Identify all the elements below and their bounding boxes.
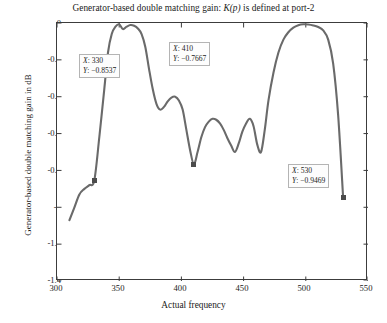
x-tick-label-1: 350: [98, 284, 138, 293]
chart-title-symbol: K(p): [223, 3, 240, 13]
data-tip-410[interactable]: X: 410 Y: −0.7667: [169, 42, 210, 66]
chart-figure: Generator-based double matching gain: K(…: [0, 0, 387, 323]
plot-area: X: 330 Y: −0.8537 X: 410 Y: −0.7667 X: 5…: [56, 22, 367, 280]
x-tick-label-5: 550: [346, 284, 386, 293]
x-axis-ticks-top: [57, 23, 368, 28]
data-tip-530-x: X: 530: [292, 166, 325, 176]
data-marker-330[interactable]: [92, 178, 97, 183]
x-axis-ticks: [57, 277, 368, 282]
data-tip-530[interactable]: X: 530 Y: −0.9469: [288, 164, 329, 188]
data-tip-410-y: Y: −0.7667: [173, 54, 206, 64]
x-tick-label-0: 300: [36, 284, 76, 293]
data-marker-530[interactable]: [341, 195, 346, 200]
chart-title-lead: Generator-based double matching gain:: [72, 3, 223, 13]
data-tip-410-x: X: 410: [173, 44, 206, 54]
chart-title-tail: is defined at port-2: [241, 3, 315, 13]
x-tick-label-2: 400: [160, 284, 200, 293]
y-axis-label: Generator-based double matching gain in …: [23, 35, 33, 275]
data-marker-410[interactable]: [191, 162, 196, 167]
y-axis-ticks: [57, 23, 62, 281]
data-tip-330-x: X: 330: [83, 56, 116, 66]
chart-title: Generator-based double matching gain: K(…: [0, 3, 387, 13]
x-axis-label: Actual frequency: [0, 300, 387, 310]
data-tip-330[interactable]: X: 330 Y: −0.8537: [79, 54, 120, 78]
y-axis-ticks-right: [364, 23, 369, 281]
data-tip-330-y: Y: −0.8537: [83, 66, 116, 76]
x-tick-label-3: 450: [222, 284, 262, 293]
y-tick-label-0: 0: [1, 19, 61, 28]
data-tip-530-y: Y: −0.9469: [292, 176, 325, 186]
x-tick-label-4: 500: [284, 284, 324, 293]
